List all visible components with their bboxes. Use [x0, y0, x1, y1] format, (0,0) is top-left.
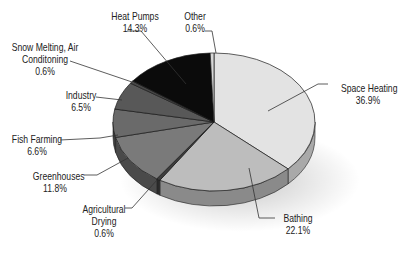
label-greenhouses: Greenhouses 11.8% — [33, 170, 77, 194]
label-agricultural-drying: Agricultural Drying 0.6% — [81, 203, 127, 239]
label-other-pct: 0.6% — [183, 22, 208, 34]
label-heat-pumps-name: Heat Pumps — [106, 10, 163, 22]
leader-line — [70, 61, 132, 82]
leader-line — [60, 135, 118, 140]
label-space-name: Space Heating — [341, 82, 395, 94]
label-greenhouses-name: Greenhouses — [33, 170, 77, 182]
leader-line — [205, 31, 216, 53]
label-snow-pct: 0.6% — [11, 65, 78, 77]
label-fish-pct: 6.6% — [12, 145, 63, 157]
label-agri-pct: 0.6% — [81, 227, 127, 239]
label-fish-name: Fish Farming — [12, 133, 63, 145]
label-agri-name-2: Drying — [81, 215, 127, 227]
label-industry-name: Industry — [62, 89, 100, 101]
label-snow-name-2: Conditoning — [11, 53, 78, 65]
label-bathing-name: Bathing — [283, 212, 313, 224]
label-bathing-pct: 22.1% — [283, 224, 313, 236]
label-snow-name-1: Snow Melting, Air — [11, 41, 78, 53]
label-fish-farming: Fish Farming 6.6% — [12, 133, 63, 157]
pie-slices — [113, 53, 315, 191]
label-other-name: Other — [183, 10, 208, 22]
slice-side — [157, 179, 160, 195]
label-agri-name-1: Agricultural — [81, 203, 127, 215]
label-bathing: Bathing 22.1% — [283, 212, 313, 236]
label-greenhouses-pct: 11.8% — [33, 182, 77, 194]
label-snow-melting: Snow Melting, Air Conditoning 0.6% — [11, 41, 78, 77]
pie-chart — [0, 0, 402, 256]
label-heat-pumps: Heat Pumps 14.3% — [106, 10, 163, 34]
leader-line — [96, 97, 122, 100]
label-industry-pct: 6.5% — [62, 101, 100, 113]
label-industry: Industry 6.5% — [62, 89, 100, 113]
label-space-pct: 36.9% — [341, 94, 395, 106]
label-heat-pumps-pct: 14.3% — [106, 22, 163, 34]
label-space-heating: Space Heating 36.9% — [341, 82, 395, 106]
label-other: Other 0.6% — [183, 10, 208, 34]
